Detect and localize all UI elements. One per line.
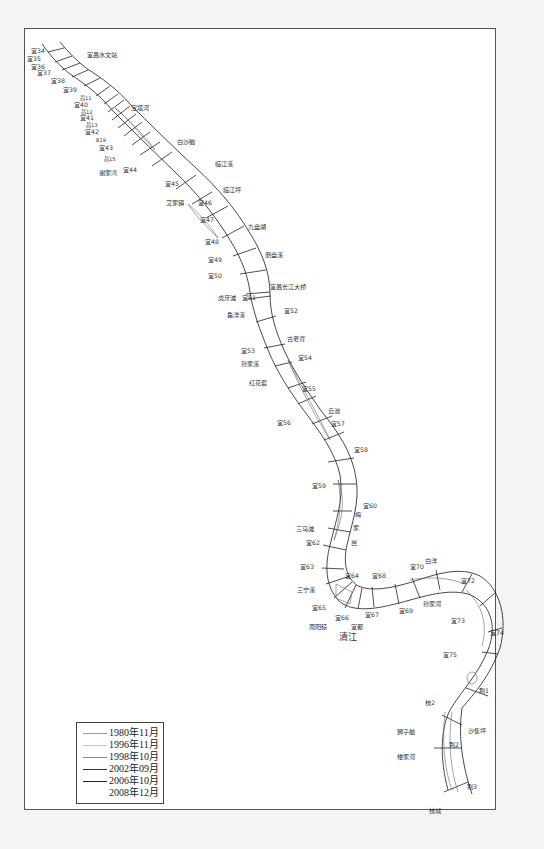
small-section-label: 昌11 (80, 95, 92, 102)
place-label: 三宁溪 (297, 586, 315, 594)
place-label: 白沙脑 (177, 138, 195, 146)
section-label: 荆2 (449, 741, 459, 749)
place-label: 鱼洋溪 (227, 311, 245, 319)
section-label: 宜35 (27, 55, 41, 62)
place-label: 沙集坪 (468, 727, 486, 735)
section-label: 宜72 (461, 577, 475, 584)
legend-item: 1980年11月 (83, 727, 163, 739)
section-label: 宜74 (490, 629, 504, 636)
section-label: 宜75 (443, 651, 457, 658)
section-label: 宜43 (99, 144, 113, 151)
place-label: 楼家河 (397, 753, 415, 761)
section-label: 宜39 (63, 86, 77, 93)
section-label: 宜55 (302, 385, 316, 392)
cross-section-lines (48, 48, 502, 792)
place-label: 枝城 (429, 807, 441, 815)
section-label: 宜67 (365, 611, 379, 618)
small-section-label: 昌15 (104, 156, 116, 163)
legend-item: 1996年11月 (83, 739, 163, 751)
place-label: 古老背 (287, 335, 305, 343)
place-label: 磨盘溪 (265, 251, 283, 259)
place-label: 狮子脑 (397, 728, 415, 736)
legend-label: 1998年10月 (109, 751, 159, 763)
place-label: 云池 (328, 407, 340, 415)
section-label: 枝2 (425, 699, 435, 707)
section-label: 宜47 (200, 216, 214, 223)
section-label: 宜53 (241, 347, 255, 354)
section-label: 宜73 (451, 617, 465, 624)
section-label: 宜48 (205, 238, 219, 245)
legend-item: 2002年09月 (83, 763, 163, 775)
place-label: 孙家河 (423, 600, 441, 607)
section-label: 宜66 (335, 614, 349, 621)
section-label: 宜62 (306, 539, 320, 546)
place-label: 九盘湖 (248, 223, 266, 231)
small-section-label: 昌13 (86, 122, 98, 129)
legend-label: 2002年09月 (109, 763, 159, 775)
section-label: 宜37 (37, 69, 51, 76)
place-label: 南阳碛 (309, 623, 327, 631)
legend-line (83, 781, 107, 782)
small-section-label: 昌12 (81, 109, 93, 116)
sandbar-outlines (115, 108, 484, 792)
place-label: 谢家湾 (99, 169, 117, 177)
section-label: 宜68 (372, 572, 386, 579)
water-label: 清江 (339, 631, 357, 642)
section-label: 宜54 (298, 354, 312, 361)
section-label: 宜63 (300, 563, 314, 570)
legend-line (83, 793, 107, 794)
section-label: 宜38 (51, 77, 65, 84)
legend: 1980年11月 1996年11月 1998年10月 2002年09月 2006… (76, 722, 164, 804)
place-label: 白洋 (425, 557, 437, 565)
legend-label: 1980年11月 (109, 727, 159, 739)
place-label: 虎牙滩 (218, 294, 236, 302)
place-label: 宜昌长江大桥 (270, 283, 306, 291)
legend-label: 2006年10月 (109, 775, 159, 787)
vertical-place-label: 梅 (355, 511, 361, 519)
section-label: 宜52 (284, 307, 298, 314)
section-label: 荆3 (467, 783, 477, 791)
river-channel (42, 42, 503, 794)
section-label: 宜58 (354, 446, 368, 453)
section-label: 宜70 (410, 563, 424, 570)
legend-item: 2008年12月 (83, 787, 163, 799)
place-label: 宜都 (351, 623, 363, 631)
place-label: 宝塔河 (131, 104, 149, 112)
section-label: 宜69 (399, 607, 413, 614)
section-labels: 宜34宜35宜36宜37宜38宜39宜40宜41宜42宜43宜44宜45宜46宜… (27, 47, 504, 791)
vertical-labels: 梅家岂 (351, 511, 361, 546)
section-label: 宜41 (80, 114, 94, 121)
section-label: 宜57 (331, 420, 345, 427)
vertical-place-label: 家 (353, 524, 359, 531)
small-section-label: B19 (96, 137, 106, 143)
section-label: 宜34 (31, 47, 45, 54)
vertical-place-label: 岂 (351, 539, 357, 546)
place-label: 临江溪 (215, 160, 233, 168)
place-label: 临江坪 (223, 186, 241, 194)
legend-item: 2006年10月 (83, 775, 163, 787)
section-label: 宜40 (74, 101, 88, 108)
section-label: 宜60 (363, 502, 377, 509)
section-label: 宜56 (277, 419, 291, 426)
place-label: 艾家镇 (166, 199, 184, 207)
place-label: 孙家溪 (241, 360, 259, 368)
section-label: 宜46 (198, 199, 212, 206)
legend-line (83, 757, 107, 758)
section-label: 荆1 (479, 687, 489, 695)
place-label: 宜昌水文站 (87, 51, 117, 59)
legend-line (83, 733, 107, 734)
section-label: 宜49 (208, 256, 222, 263)
section-label: 宜42 (85, 128, 99, 135)
legend-item: 1998年10月 (83, 751, 163, 763)
legend-line (83, 769, 107, 770)
section-label: 宜64 (345, 572, 359, 579)
section-label: 宜59 (312, 482, 326, 489)
section-label: 宜50 (208, 272, 222, 279)
place-label: 三马滩 (296, 525, 314, 533)
section-label: 宜45 (165, 180, 179, 187)
water-labels: 清江 (339, 631, 357, 642)
legend-label: 1996年11月 (109, 739, 159, 751)
section-label: 宜44 (123, 166, 137, 173)
place-label: 红花套 (249, 379, 267, 387)
section-label: 宜65 (312, 604, 326, 611)
